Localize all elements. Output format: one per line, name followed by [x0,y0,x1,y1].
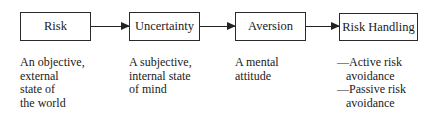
node-aversion-label: Aversion [248,19,293,34]
node-uncertainty-label: Uncertainty [135,19,194,34]
node-aversion: Aversion [235,12,306,41]
node-risk-handling-label: Risk Handling [342,20,415,35]
arrow-risk-to-uncertainty [91,26,129,27]
node-risk-label: Risk [44,19,67,34]
node-risk-description: An objective, external state of the worl… [20,56,85,110]
node-aversion-description: A mental attitude [235,56,279,83]
node-uncertainty-description: A subjective, internal state of mind [129,56,192,97]
arrow-aversion-to-risk-handling [306,26,339,27]
node-risk-handling-description: —Active risk avoidance —Passive risk avo… [337,56,406,110]
node-uncertainty: Uncertainty [129,12,200,41]
node-risk-handling: Risk Handling [339,13,418,41]
node-risk: Risk [20,12,91,41]
arrow-uncertainty-to-aversion [200,26,235,27]
